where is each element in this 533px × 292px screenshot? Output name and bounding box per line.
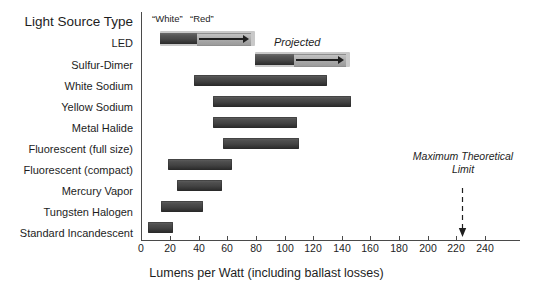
x-tick-label-200: 200 bbox=[413, 243, 443, 254]
x-tick-80 bbox=[256, 236, 257, 241]
white-segment-note: “White” bbox=[152, 14, 183, 24]
category-label-sulfur-dimer: Sulfur-Dimer bbox=[71, 60, 133, 71]
x-tick-160 bbox=[370, 236, 371, 241]
red-segment-note: “Red” bbox=[190, 14, 214, 24]
x-tick-label-60: 60 bbox=[212, 243, 242, 254]
x-tick-120 bbox=[313, 236, 314, 241]
category-label-yellow-sodium: Yellow Sodium bbox=[61, 102, 133, 113]
bar-led-arrow-line bbox=[199, 38, 243, 40]
x-tick-label-160: 160 bbox=[355, 243, 385, 254]
bar-led-arrow-head bbox=[243, 35, 249, 43]
x-tick-label-80: 80 bbox=[241, 243, 271, 254]
x-tick-100 bbox=[285, 236, 286, 241]
x-tick-label-220: 220 bbox=[441, 243, 471, 254]
bar-sulfur-dimer-arrow-head bbox=[338, 56, 344, 64]
x-tick-label-180: 180 bbox=[384, 243, 414, 254]
category-label-mercury-vapor: Mercury Vapor bbox=[62, 186, 133, 197]
x-tick-180 bbox=[399, 236, 400, 241]
bar-sulfur-dimer-white-segment bbox=[255, 54, 294, 65]
x-tick-40 bbox=[199, 236, 200, 241]
y-axis-line bbox=[141, 12, 142, 240]
bar-fluorescent-compact bbox=[168, 159, 232, 170]
bar-sulfur-dimer bbox=[255, 52, 350, 67]
bar-led-white-segment bbox=[160, 33, 197, 44]
bar-yellow-sodium bbox=[213, 96, 351, 107]
category-label-fluorescent-compact: Fluorescent (compact) bbox=[24, 165, 133, 176]
category-label-metal-halide: Metal Halide bbox=[72, 123, 133, 134]
lumens-per-watt-chart: Light Source Type LED Sulfur-Dimer White… bbox=[0, 0, 533, 292]
category-label-standard-incandescent: Standard Incandescent bbox=[20, 228, 133, 239]
bar-standard-incandescent bbox=[148, 222, 173, 233]
bar-tungsten-halogen bbox=[161, 201, 203, 212]
y-axis-title: Light Source Type bbox=[24, 15, 133, 29]
x-tick-label-120: 120 bbox=[298, 243, 328, 254]
x-tick-0 bbox=[141, 236, 142, 241]
x-tick-label-40: 40 bbox=[184, 243, 214, 254]
bar-fluorescent-full-size bbox=[223, 138, 299, 149]
maximum-theoretical-limit-arrow-icon bbox=[458, 188, 467, 238]
category-label-fluorescent-full-size: Fluorescent (full size) bbox=[28, 144, 133, 155]
maximum-theoretical-limit-label-line1: Maximum Theoretical bbox=[383, 150, 533, 162]
bar-led bbox=[160, 31, 255, 46]
x-tick-220 bbox=[456, 236, 457, 241]
x-tick-60 bbox=[227, 236, 228, 241]
x-tick-label-20: 20 bbox=[155, 243, 185, 254]
x-tick-20 bbox=[170, 236, 171, 241]
x-tick-140 bbox=[342, 236, 343, 241]
x-tick-240 bbox=[485, 236, 486, 241]
x-tick-200 bbox=[428, 236, 429, 241]
category-label-tungsten-halogen: Tungsten Halogen bbox=[44, 207, 134, 218]
x-axis-line bbox=[141, 240, 520, 241]
maximum-theoretical-limit-label-line2: Limit bbox=[383, 163, 533, 175]
bar-mercury-vapor bbox=[177, 180, 222, 191]
x-tick-label-140: 140 bbox=[327, 243, 357, 254]
x-tick-label-100: 100 bbox=[270, 243, 300, 254]
category-label-led: LED bbox=[112, 38, 133, 49]
x-tick-label-240: 240 bbox=[470, 243, 500, 254]
projected-note: Projected bbox=[274, 36, 320, 48]
category-label-white-sodium: White Sodium bbox=[65, 81, 133, 92]
bar-sulfur-dimer-arrow-line bbox=[296, 59, 338, 61]
bar-metal-halide bbox=[213, 117, 297, 128]
bar-white-sodium bbox=[194, 75, 327, 86]
x-axis-title: Lumens per Watt (including ballast losse… bbox=[0, 266, 533, 280]
x-tick-label-0: 0 bbox=[126, 243, 156, 254]
